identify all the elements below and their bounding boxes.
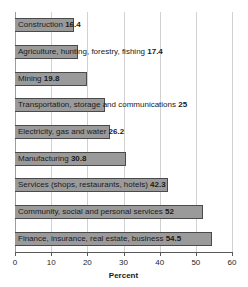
chart-title-cropped [14, 0, 234, 9]
bar-label: Finance, insurance, real estate, busines… [15, 232, 181, 246]
bar-row: Finance, insurance, real estate, busines… [15, 232, 232, 246]
x-tick-0 [15, 252, 16, 256]
x-tick-60 [232, 252, 233, 256]
bar-label: Electricity, gas and water 26.2 [15, 125, 124, 139]
bar-row: Construction 16.4 [15, 18, 232, 32]
plot-area: Construction 16.4Agriculture, hunting, f… [15, 12, 232, 252]
x-tick-10 [51, 252, 52, 256]
bar-label: Transportation, storage and communicatio… [15, 98, 187, 112]
x-tick-label-0: 0 [13, 258, 17, 267]
bar-label: Construction 16.4 [15, 18, 81, 32]
x-tick-40 [160, 252, 161, 256]
x-tick-20 [87, 252, 88, 256]
x-axis-tick-labels: 0102030405060 [0, 258, 248, 270]
bar-row: Mining 19.8 [15, 72, 232, 86]
bar-row: Manufacturing 30.8 [15, 152, 232, 166]
bar-label: Services (shops, restaurants, hotels) 42… [15, 178, 166, 192]
bar-row: Transportation, storage and communicatio… [15, 98, 232, 112]
bar-label: Community, social and personal services … [15, 205, 174, 219]
x-axis-title: Percent [15, 271, 232, 280]
bar-row: Community, social and personal services … [15, 205, 232, 219]
x-tick-label-50: 50 [191, 258, 200, 267]
x-tick-50 [196, 252, 197, 256]
bar-row: Electricity, gas and water 26.2 [15, 125, 232, 139]
x-tick-label-60: 60 [228, 258, 237, 267]
bar-label: Manufacturing 30.8 [15, 152, 87, 166]
bar-row: Agriculture, hunting, forestry, fishing … [15, 45, 232, 59]
x-axis-ticks [15, 252, 232, 257]
x-tick-label-20: 20 [83, 258, 92, 267]
bar-label: Mining 19.8 [15, 72, 59, 86]
bar-label: Agriculture, hunting, forestry, fishing … [15, 45, 163, 59]
x-tick-label-40: 40 [155, 258, 164, 267]
gridline-60 [232, 12, 233, 252]
x-tick-label-30: 30 [119, 258, 128, 267]
x-tick-label-10: 10 [47, 258, 56, 267]
bar-row: Services (shops, restaurants, hotels) 42… [15, 178, 232, 192]
x-tick-30 [124, 252, 125, 256]
bar-chart: Construction 16.4Agriculture, hunting, f… [0, 0, 248, 287]
bar-series: Construction 16.4Agriculture, hunting, f… [15, 12, 232, 252]
